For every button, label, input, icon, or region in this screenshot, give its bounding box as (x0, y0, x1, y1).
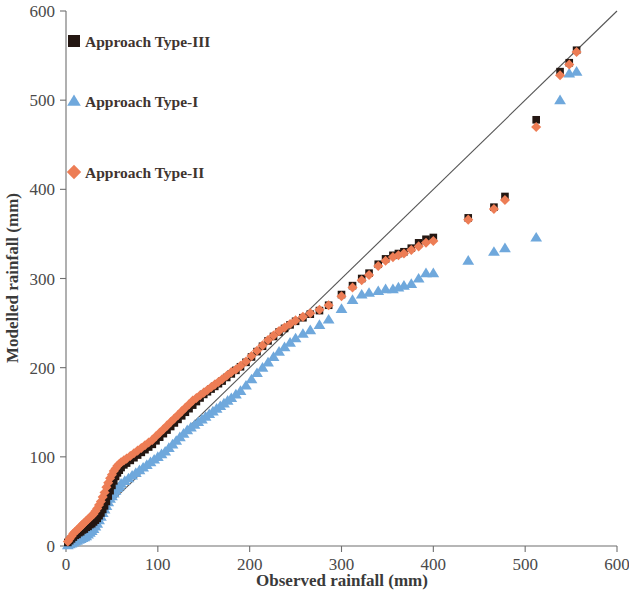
data-point (571, 66, 583, 76)
legend-label: Approach Type-I (85, 93, 198, 110)
data-point (427, 268, 439, 278)
data-point (363, 287, 375, 297)
data-point (304, 325, 316, 335)
data-point (554, 95, 566, 105)
legend-label: Approach Type-II (85, 164, 204, 181)
y-tick-label: 500 (30, 91, 56, 110)
data-point (499, 243, 511, 253)
data-point (336, 303, 348, 313)
legend-marker-square (68, 35, 80, 47)
y-axis-title: Modelled rainfall (mm) (3, 193, 22, 363)
data-point (314, 319, 326, 329)
chart-figure: 01002003004005006000100200300400500600 O… (0, 0, 629, 597)
y-tick-label: 200 (30, 359, 56, 378)
legend-marker-triangle (67, 95, 81, 106)
y-tick-label: 400 (30, 180, 56, 199)
x-tick-label: 500 (512, 555, 538, 574)
data-point (347, 294, 359, 304)
y-tick-label: 100 (30, 448, 56, 467)
y-tick-label: 600 (30, 2, 56, 21)
chart-legend: Approach Type-IIIApproach Type-IApproach… (67, 33, 211, 181)
x-axis-title: Observed rainfall (mm) (256, 571, 428, 590)
data-point (462, 255, 474, 265)
legend-marker-diamond (67, 165, 81, 179)
x-tick-label: 0 (62, 555, 71, 574)
y-tick-label: 0 (47, 537, 56, 556)
x-tick-label: 100 (145, 555, 171, 574)
data-point (488, 246, 500, 256)
x-tick-label: 600 (604, 555, 629, 574)
scatter-plot: 01002003004005006000100200300400500600 O… (0, 0, 629, 597)
y-tick-label: 300 (30, 270, 56, 289)
legend-label: Approach Type-III (85, 33, 210, 50)
data-point (323, 314, 335, 324)
data-point (530, 232, 542, 242)
